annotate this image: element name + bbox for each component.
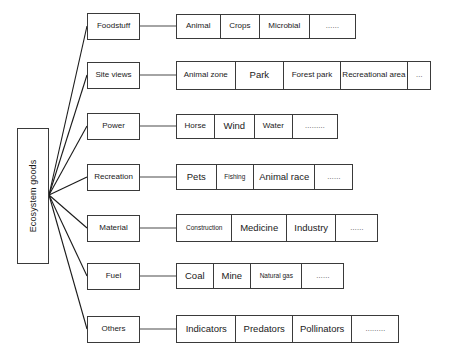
connector-root-to-others [49,195,87,329]
category-node-label: Others [101,325,125,334]
child-cell: Indicators [177,316,236,342]
child-cell: Coal [177,264,214,288]
category-node-label: Material [99,224,127,233]
child-strip-fuel: CoalMineNatural gas…… [176,263,344,289]
child-cell: Park [236,62,285,89]
child-cell: Microbial [260,15,309,38]
child-cell-ellipsis: …… [315,165,352,189]
category-node-site-views: Site views [87,62,140,89]
child-cell: Animal zone [177,62,236,89]
root-node-ecosystem-goods: Ecosystem goods [17,128,49,264]
child-cell: Predators [236,316,292,342]
category-node-label: Foodstuff [97,22,130,31]
child-cell-ellipsis: …… [336,215,377,241]
child-cell: Crops [221,15,261,38]
child-cell: Pollinators [293,316,352,342]
child-strip-site-views: Animal zoneParkForest parkRecreational a… [176,61,431,90]
child-cell-ellipsis: ……… [293,115,337,138]
ecosystem-goods-diagram: Ecosystem goods FoodstuffAnimalCropsMicr… [0,0,459,361]
child-cell: Animal [177,15,221,38]
child-cell-ellipsis: … [408,62,430,89]
child-cell: Mine [214,264,252,288]
connector-root-to-recreation [49,177,87,195]
child-strip-foodstuff: AnimalCropsMicrobial…… [176,14,356,39]
child-cell: Forest park [284,62,341,89]
connector-root-to-site-views [49,75,87,195]
category-node-label: Recreation [94,173,133,182]
child-cell-ellipsis: …… [310,15,355,38]
category-node-label: Site views [95,71,131,80]
category-node-fuel: Fuel [87,263,140,290]
category-node-recreation: Recreation [87,164,140,191]
child-cell: Water [255,115,293,138]
child-cell: Fishing [217,165,255,189]
child-cell: Industry [287,215,337,241]
child-strip-recreation: PetsFishingAnimal race…… [176,164,353,190]
connector-root-to-foodstuff [49,26,87,195]
child-cell: Animal race [254,165,315,189]
child-cell: Horse [177,115,215,138]
child-cell: Natural gas [251,264,302,288]
category-node-foodstuff: Foodstuff [87,13,140,40]
child-cell-ellipsis: ……… [352,316,398,342]
category-node-label: Power [102,122,125,131]
category-node-material: Material [87,215,140,242]
child-strip-others: IndicatorsPredatorsPollinators……… [176,315,399,343]
connector-root-to-fuel [49,195,87,276]
child-cell: Recreational area [341,62,408,89]
child-cell: Construction [177,215,232,241]
connector-root-to-material [49,195,87,228]
category-node-power: Power [87,113,140,140]
connector-root-to-power [49,126,87,195]
root-node-label: Ecosystem goods [29,160,38,233]
child-cell-ellipsis: …… [302,264,343,288]
child-cell: Medicine [232,215,286,241]
child-strip-material: ConstructionMedicineIndustry…… [176,214,378,242]
category-node-others: Others [87,316,140,343]
child-cell: Pets [177,165,217,189]
category-node-label: Fuel [106,272,122,281]
child-cell: Wind [215,115,256,138]
child-strip-power: HorseWindWater……… [176,114,338,139]
